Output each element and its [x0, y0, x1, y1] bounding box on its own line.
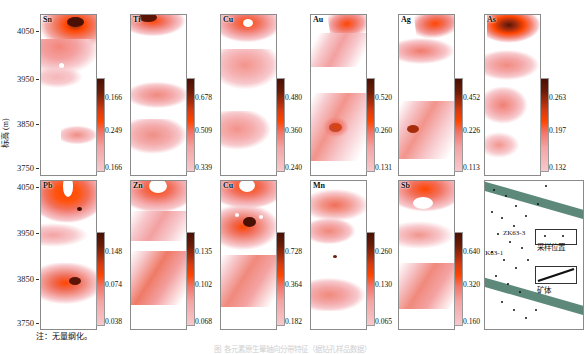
contour-peak — [69, 277, 81, 285]
tick-mark — [36, 279, 39, 280]
panel-label-pb: Pb — [43, 181, 52, 190]
sample-point — [503, 259, 505, 261]
colorbar-ag — [454, 78, 463, 172]
colorbar-tick-cu-top-2: 0.240 — [285, 163, 302, 172]
panel-label-as: As — [487, 15, 496, 24]
contour-fill — [40, 263, 97, 305]
colorbar-tick-as-0: 0.263 — [549, 93, 566, 102]
colorbar-au — [366, 78, 375, 172]
sample-point — [525, 317, 527, 319]
contour-fill — [220, 205, 277, 251]
sample-point — [505, 195, 507, 197]
colorbar-gradient — [455, 233, 462, 325]
panel-label-cu-top: Cu — [223, 15, 233, 24]
contour-peak — [243, 217, 256, 227]
contour-hole — [163, 155, 187, 171]
colorbar-tick-zn-2: 0.068 — [195, 317, 212, 326]
contour-hole — [413, 197, 433, 209]
colorbar-gradient — [277, 79, 284, 171]
panel-sb: Sb — [398, 180, 455, 330]
colorbar-tick-cu-bottom-0: 0.728 — [285, 247, 302, 256]
contour-fill — [484, 49, 541, 81]
contour-fill — [130, 251, 187, 305]
colorbar-tick-au-1: 0.260 — [375, 126, 392, 135]
colorbar-as — [540, 78, 549, 172]
contour-fill — [310, 217, 357, 245]
figure-root: 标高 (m) 4050 3950 3850 3750 4050 3950 385… — [0, 0, 585, 354]
colorbar-tick-zn-1: 0.102 — [195, 280, 212, 289]
y-tick-top-3: 3750 — [4, 163, 34, 173]
colorbar-tick-ti-0: 0.678 — [195, 93, 212, 102]
colorbar-tick-sn-2: 0.166 — [105, 163, 122, 172]
colorbar-tick-ag-1: 0.226 — [463, 126, 480, 135]
colorbar-tick-mn-2: 0.065 — [375, 317, 392, 326]
y-tick-top-1: 3950 — [4, 74, 34, 84]
colorbar-gradient — [187, 79, 194, 171]
panel-cu-top: Cu — [220, 14, 277, 176]
y-tick-bottom-3: 3750 — [4, 318, 34, 328]
colorbar-tick-ti-2: 0.339 — [195, 163, 212, 172]
contour-peak — [77, 207, 82, 211]
colorbar-cu-bottom — [276, 232, 285, 326]
sample-point — [501, 217, 503, 219]
colorbar-tick-sb-2: 0.160 — [463, 317, 480, 326]
legend-label-orebody: 矿体 — [537, 284, 551, 295]
colorbar-tick-cu-top-0: 0.480 — [285, 93, 302, 102]
tick-mark — [36, 124, 39, 125]
colorbar-tick-ag-0: 0.452 — [463, 93, 480, 102]
sample-point — [515, 267, 517, 269]
colorbar-sb — [454, 232, 463, 326]
sample-point — [497, 233, 499, 235]
sample-point — [515, 205, 517, 207]
contour-fill — [220, 49, 277, 97]
contour-fill — [130, 211, 187, 241]
panel-label-au: Au — [313, 15, 323, 24]
colorbar-mn — [366, 232, 375, 326]
tick-mark — [36, 31, 39, 32]
tick-mark — [36, 233, 39, 234]
contour-peak — [67, 17, 84, 27]
colorbar-tick-zn-0: 0.135 — [195, 247, 212, 256]
sample-point — [513, 309, 515, 311]
colorbar-tick-pb-1: 0.074 — [105, 280, 122, 289]
contour-fill — [310, 33, 367, 67]
contour-fill — [61, 125, 97, 145]
panel-ag: Ag — [398, 14, 455, 176]
tick-mark — [36, 79, 39, 80]
y-axis-label: 标高 (m) — [0, 78, 10, 148]
panel-label-zn: Zn — [133, 181, 143, 190]
colorbar-tick-mn-1: 0.130 — [375, 280, 392, 289]
sample-point — [509, 241, 511, 243]
panel-label-sn: Sn — [43, 15, 52, 24]
colorbar-gradient — [277, 233, 284, 325]
contour-hole — [241, 99, 253, 109]
sample-point — [493, 189, 495, 191]
colorbar-tick-au-2: 0.131 — [375, 163, 392, 172]
tick-mark — [36, 168, 39, 169]
orebody-hatch-icon — [536, 267, 576, 283]
contour-hole — [243, 19, 253, 27]
panel-pb: Pb — [40, 180, 97, 330]
colorbar-tick-pb-2: 0.038 — [105, 317, 122, 326]
panel-sn: Sn — [40, 14, 97, 176]
y-tick-bottom-1: 3950 — [4, 228, 34, 238]
colorbar-gradient — [97, 79, 104, 171]
colorbar-cu-top — [276, 78, 285, 172]
figure-note: 注：无量纲化。 — [36, 330, 92, 341]
panel-as: As — [484, 14, 541, 176]
colorbar-zn — [186, 232, 195, 326]
contour-hole — [235, 213, 239, 217]
contour-fill — [130, 119, 187, 159]
panel-au: Au — [310, 14, 367, 176]
panel-label-ag: Ag — [401, 15, 411, 24]
sample-point — [525, 215, 527, 217]
sample-point — [545, 185, 547, 187]
colorbar-ti — [186, 78, 195, 172]
colorbar-tick-as-2: 0.132 — [549, 163, 566, 172]
colorbar-tick-as-1: 0.197 — [549, 126, 566, 135]
panel-mn: Mn — [310, 180, 367, 330]
sample-point — [501, 301, 503, 303]
sample-point — [562, 235, 564, 237]
colorbar-tick-cu-bottom-1: 0.364 — [285, 280, 302, 289]
orebody-band-upper — [484, 180, 584, 220]
